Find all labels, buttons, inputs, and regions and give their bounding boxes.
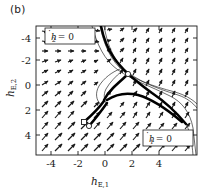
x-axis-title-sub: E,1 <box>98 181 109 189</box>
x-tick-label: 0 <box>102 158 108 169</box>
nullcline-label-h1: ḣ1= 0 <box>143 130 193 146</box>
y-tick-label: 0 <box>25 80 31 91</box>
y-tick-label: 2 <box>25 105 31 116</box>
initial-condition-circle <box>86 123 91 128</box>
x-tick-label: -2 <box>73 158 83 169</box>
nullcline-h2-rhs: = 0 <box>58 32 74 42</box>
phase-portrait-plot: -4 -2 0 2 4 -4 -2 0 2 4 hE,1 hE,2 <box>0 0 210 193</box>
y-tick-label: -4 <box>21 33 31 44</box>
nullcline-label-h2: ḣ2= 0 <box>45 28 95 44</box>
fixed-point-saddle <box>125 71 130 76</box>
y-axis-title: hE,2 <box>4 79 18 97</box>
figure-panel-b: (b) <box>0 0 210 193</box>
y-tick-labels: -4 -2 0 2 4 <box>21 33 31 141</box>
svg-text:ḣ2= 0: ḣ2= 0 <box>49 30 74 43</box>
svg-text:hE,1: hE,1 <box>91 175 109 189</box>
initial-condition-square <box>82 120 87 125</box>
svg-text:hE,2: hE,2 <box>4 79 18 97</box>
x-axis-title-base: h <box>91 175 98 187</box>
nullcline-h1-sub: 1 <box>150 138 154 145</box>
nullcline-h1-rhs: = 0 <box>156 134 172 144</box>
y-tick-label: 4 <box>25 130 31 141</box>
x-tick-label: -4 <box>46 158 56 169</box>
y-axis-title-base: h <box>4 90 16 97</box>
y-axis-title-sub: E,2 <box>10 79 18 90</box>
x-axis-title: hE,1 <box>91 175 109 189</box>
x-tick-label: 4 <box>156 158 162 169</box>
x-tick-label: 2 <box>129 158 135 169</box>
x-tick-labels: -4 -2 0 2 4 <box>46 158 162 169</box>
nullcline-h2-sub: 2 <box>52 36 56 43</box>
svg-text:ḣ1= 0: ḣ1= 0 <box>147 132 172 145</box>
y-tick-label: -2 <box>21 55 31 66</box>
